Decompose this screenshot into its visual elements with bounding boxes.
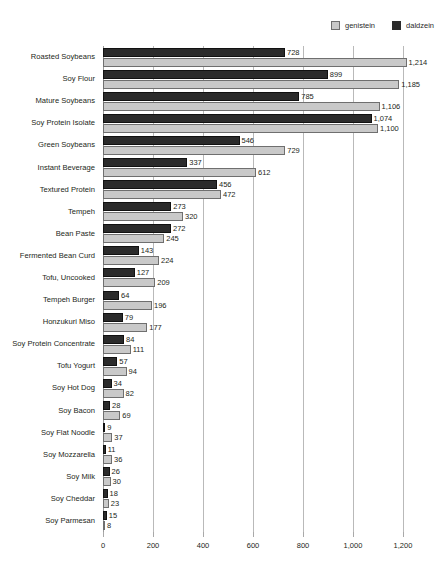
y-axis-label: Soy Protein Isolate [0, 118, 95, 128]
bar-daldzein[interactable] [103, 48, 285, 57]
y-axis-label: Bean Paste [0, 229, 95, 239]
bar-genistein[interactable] [103, 80, 399, 89]
bar-value-label: 337 [189, 158, 202, 167]
bar-daldzein[interactable] [103, 489, 108, 498]
bar-group: 546729 [103, 134, 403, 156]
x-tick-label-1200: 1,200 [394, 541, 413, 550]
bar-genistein[interactable] [103, 124, 378, 133]
bar-group: 64196 [103, 289, 403, 311]
bar-value-label: 143 [141, 246, 154, 255]
legend-item-genistein[interactable]: genistein [331, 21, 375, 30]
bar-daldzein[interactable] [103, 467, 110, 476]
bar-value-label: 209 [157, 278, 170, 287]
bar-value-label: 472 [223, 190, 236, 199]
bar-genistein[interactable] [103, 411, 120, 420]
y-axis-category-labels: Roasted SoybeansSoy FlourMature Soybeans… [0, 46, 99, 532]
bar-daldzein[interactable] [103, 401, 110, 410]
bar-genistein[interactable] [103, 212, 183, 221]
bar-group: 3482 [103, 377, 403, 399]
bar-group: 143224 [103, 245, 403, 267]
bar-daldzein[interactable] [103, 202, 171, 211]
bar-group: 7281,214 [103, 46, 403, 68]
bar-genistein[interactable] [103, 323, 147, 332]
y-axis-label: Roasted Soybeans [0, 52, 95, 62]
bar-daldzein[interactable] [103, 357, 117, 366]
bar-daldzein[interactable] [103, 313, 123, 322]
bar-genistein[interactable] [103, 367, 127, 376]
bar-value-label: 899 [330, 70, 343, 79]
bar-group: 273320 [103, 201, 403, 223]
bar-value-label: 26 [112, 467, 120, 476]
bar-value-label: 1,106 [382, 102, 401, 111]
bar-daldzein[interactable] [103, 136, 240, 145]
gridline-1200 [403, 46, 404, 532]
bar-value-label: 84 [126, 335, 134, 344]
x-tick-200 [153, 532, 154, 537]
bar-genistein[interactable] [103, 345, 131, 354]
bar-genistein[interactable] [103, 168, 256, 177]
legend-item-daldzein[interactable]: daldzein [392, 21, 434, 30]
bar-group: 84111 [103, 333, 403, 355]
bar-daldzein[interactable] [103, 423, 105, 432]
bar-value-label: 224 [161, 256, 174, 265]
bar-genistein[interactable] [103, 521, 105, 530]
legend-swatch-daldzein [392, 21, 401, 30]
bar-daldzein[interactable] [103, 92, 299, 101]
bar-daldzein[interactable] [103, 511, 107, 520]
bar-daldzein[interactable] [103, 224, 171, 233]
bar-genistein[interactable] [103, 301, 152, 310]
bar-daldzein[interactable] [103, 268, 135, 277]
bar-genistein[interactable] [103, 499, 109, 508]
bar-group: 127209 [103, 267, 403, 289]
y-axis-label: Green Soybeans [0, 140, 95, 150]
y-axis-label: Honzukuri Miso [0, 317, 95, 327]
bar-genistein[interactable] [103, 190, 221, 199]
bar-daldzein[interactable] [103, 335, 124, 344]
x-tick-600 [253, 532, 254, 537]
bar-genistein[interactable] [103, 256, 159, 265]
bar-value-label: 456 [219, 180, 232, 189]
bar-genistein[interactable] [103, 433, 112, 442]
bar-daldzein[interactable] [103, 445, 106, 454]
bar-value-label: 1,214 [409, 58, 428, 67]
y-axis-label: Soy Hot Dog [0, 383, 95, 393]
bar-value-label: 546 [242, 136, 255, 145]
x-tick-0 [103, 532, 104, 537]
bar-value-label: 272 [173, 224, 186, 233]
y-axis-label: Tempeh Burger [0, 295, 95, 305]
y-axis-label: Textured Protein [0, 185, 95, 195]
bar-genistein[interactable] [103, 455, 112, 464]
bar-group: 79177 [103, 311, 403, 333]
bar-daldzein[interactable] [103, 379, 112, 388]
bar-genistein[interactable] [103, 234, 164, 243]
bar-group: 7851,106 [103, 90, 403, 112]
bar-daldzein[interactable] [103, 70, 328, 79]
bar-value-label: 785 [301, 92, 314, 101]
bar-value-label: 64 [121, 291, 129, 300]
bar-genistein[interactable] [103, 477, 111, 486]
y-axis-label: Soy Milk [0, 472, 95, 482]
bar-value-label: 23 [111, 499, 119, 508]
y-axis-label: Soy Flour [0, 74, 95, 84]
bar-daldzein[interactable] [103, 246, 139, 255]
bar-value-label: 1,074 [374, 114, 393, 123]
bar-group: 158 [103, 510, 403, 532]
bar-daldzein[interactable] [103, 114, 372, 123]
bar-value-label: 196 [154, 301, 167, 310]
bar-genistein[interactable] [103, 278, 155, 287]
bar-genistein[interactable] [103, 389, 124, 398]
bar-value-label: 127 [137, 268, 150, 277]
y-axis-label: Fermented Bean Curd [0, 251, 95, 261]
bar-genistein[interactable] [103, 58, 407, 67]
x-tick-label-400: 400 [197, 541, 210, 550]
bar-group: 2869 [103, 399, 403, 421]
bar-daldzein[interactable] [103, 158, 187, 167]
y-axis-label: Soy Flat Noodle [0, 428, 95, 438]
y-axis-label: Instant Beverage [0, 163, 95, 173]
bar-daldzein[interactable] [103, 180, 217, 189]
y-axis-label: Soy Protein Concentrate [0, 339, 95, 349]
bar-daldzein[interactable] [103, 291, 119, 300]
bar-genistein[interactable] [103, 102, 380, 111]
bar-genistein[interactable] [103, 146, 285, 155]
y-axis-label: Tofu Yogurt [0, 361, 95, 371]
